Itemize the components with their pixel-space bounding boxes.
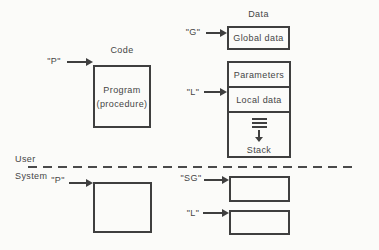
stack-segment: Stack	[229, 113, 289, 156]
global-data-label: Global data	[233, 33, 283, 43]
memory-layout-diagram: "P" Code Program (procedure) Data "G" Gl…	[0, 0, 379, 250]
local-data-label: Local data	[236, 95, 282, 105]
right-arrow-icon	[204, 179, 222, 181]
pointer-label-p-user: "P"	[40, 56, 68, 66]
program-box-line1: Program	[103, 83, 140, 97]
right-arrow-icon	[206, 32, 220, 34]
local-data-segment: Local data	[229, 88, 289, 113]
right-arrow-icon	[67, 61, 86, 63]
right-arrow-icon	[69, 182, 86, 184]
parameters-label: Parameters	[234, 70, 285, 80]
system-l-descriptor-box	[229, 210, 290, 235]
pointer-label-p-system: "P"	[44, 175, 72, 185]
user-system-boundary-line	[28, 166, 357, 168]
right-arrow-icon	[204, 91, 220, 93]
code-section-title: Code	[93, 45, 151, 55]
data-section-title: Data	[227, 9, 290, 19]
stack-label: Stack	[247, 145, 272, 155]
activation-record-box: Parameters Local data Stack	[227, 61, 291, 158]
global-data-box: Global data	[227, 26, 290, 50]
right-arrow-icon	[203, 212, 222, 214]
program-box: Program (procedure)	[93, 65, 151, 128]
user-space-label: User	[15, 154, 36, 164]
pointer-label-l-user: "L"	[180, 87, 206, 97]
parameters-segment: Parameters	[229, 63, 289, 88]
system-code-descriptor-box	[93, 182, 152, 233]
program-box-line2: (procedure)	[97, 97, 148, 111]
stack-top-marker-icon	[252, 118, 267, 142]
system-space-label: System	[15, 171, 47, 181]
pointer-label-sg: "SG"	[176, 173, 206, 183]
system-sg-descriptor-box	[229, 176, 290, 202]
pointer-label-g: "G"	[180, 27, 206, 37]
